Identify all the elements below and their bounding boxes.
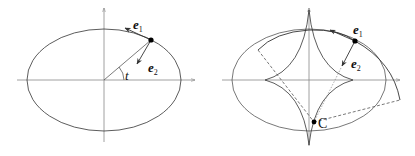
e2-label: e2	[351, 56, 361, 73]
dashed-normal-mid	[314, 68, 341, 122]
left-panel: e1 e2 t	[17, 8, 195, 142]
e1-label: e1	[133, 17, 143, 34]
angle-label: t	[125, 68, 129, 83]
angle-arc	[119, 67, 124, 80]
dashed-normal-left	[258, 50, 314, 122]
figure: e1 e2 t e1 e2 C	[0, 0, 415, 156]
point-c-label: C	[318, 116, 327, 131]
e2-label: e2	[148, 60, 158, 77]
curve-point	[148, 37, 153, 42]
right-panel: e1 e2 C	[222, 8, 400, 146]
curve-point	[352, 38, 357, 43]
e1-label: e1	[353, 22, 363, 39]
center-of-curvature-point	[312, 120, 317, 125]
e1-vector	[330, 30, 355, 41]
